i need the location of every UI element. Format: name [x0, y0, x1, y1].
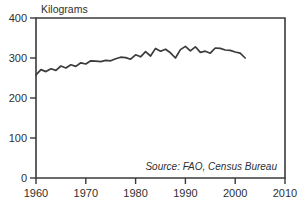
line-chart: 400 300 200 100 0 1960 1970 1980 1990 20…	[0, 0, 306, 206]
y-axis-tick-label-200: 200	[9, 92, 27, 104]
y-axis-tick-label-0: 0	[21, 172, 27, 184]
x-axis-tick-label-1990: 1990	[173, 187, 197, 199]
plot-frame	[36, 18, 285, 178]
x-axis-tick-label-1970: 1970	[74, 187, 98, 199]
x-axis-tick-label-1960: 1960	[24, 187, 48, 199]
chart-container: 400 300 200 100 0 1960 1970 1980 1990 20…	[0, 0, 306, 206]
x-axis-tick-label-2000: 2000	[223, 187, 247, 199]
x-axis-labels: 1960 1970 1980 1990 2000 2010	[24, 187, 297, 199]
x-axis-tick-label-2010: 2010	[273, 187, 297, 199]
data-series-line	[36, 46, 245, 74]
y-axis-ticks	[30, 18, 36, 178]
y-axis-tick-label-100: 100	[9, 132, 27, 144]
x-axis-ticks	[36, 178, 285, 184]
y-axis-labels: 400 300 200 100 0	[9, 12, 27, 184]
x-axis-tick-label-1980: 1980	[123, 187, 147, 199]
y-axis-tick-label-300: 300	[9, 52, 27, 64]
y-axis-tick-label-400: 400	[9, 12, 27, 24]
source-annotation: Source: FAO, Census Bureau	[145, 161, 277, 172]
chart-title: Kilograms	[41, 3, 88, 15]
